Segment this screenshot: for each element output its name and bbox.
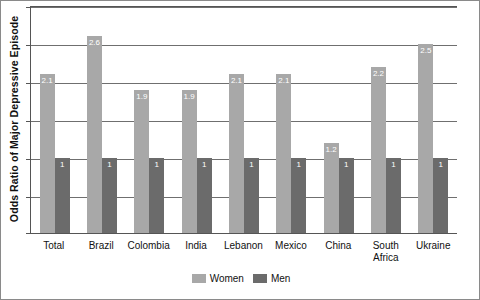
bar-women[interactable]: 1.2 <box>324 143 339 234</box>
legend-label: Men <box>271 273 290 284</box>
bar-value-label: 1.9 <box>184 93 195 101</box>
bar-value-label: 2.1 <box>231 77 242 85</box>
bar-group: 2.61 <box>78 7 125 234</box>
plot-area: 2.112.611.911.912.112.111.212.212.51 <box>30 6 457 234</box>
x-axis-label: Ukraine <box>410 237 457 271</box>
x-axis-label: Lebanon <box>220 237 267 271</box>
bar-value-label: 1 <box>202 161 206 169</box>
y-axis-title-container: Odds Ratio of Major Depressive Episode <box>1 1 27 237</box>
bar-men[interactable]: 1 <box>102 158 117 234</box>
x-axis-label: Brazil <box>77 237 124 271</box>
x-axis-label: South Africa <box>362 237 409 271</box>
chart-legend: WomenMen <box>1 273 480 284</box>
bar-group: 1.91 <box>173 7 220 234</box>
legend-swatch-icon <box>253 274 267 283</box>
bar-men[interactable]: 1 <box>291 158 306 234</box>
legend-swatch-icon <box>192 274 206 283</box>
bar-value-label: 1 <box>297 161 301 169</box>
bar-women[interactable]: 2.1 <box>40 74 55 234</box>
bar-value-label: 1 <box>391 161 395 169</box>
bar-value-label: 1 <box>60 161 64 169</box>
bar-value-label: 2.1 <box>278 77 289 85</box>
bar-group: 2.11 <box>220 7 267 234</box>
bar-men[interactable]: 1 <box>339 158 354 234</box>
x-axis-label: China <box>315 237 362 271</box>
bar-value-label: 2.1 <box>42 77 53 85</box>
bar-groups: 2.112.611.911.912.112.111.212.212.51 <box>31 7 457 234</box>
bar-value-label: 1.9 <box>136 93 147 101</box>
x-axis-baseline <box>26 233 457 234</box>
x-axis-label: Mexico <box>267 237 314 271</box>
bar-group: 1.21 <box>315 7 362 234</box>
legend-label: Women <box>210 273 244 284</box>
bar-group: 2.51 <box>410 7 457 234</box>
bar-women[interactable]: 2.1 <box>276 74 291 234</box>
bar-men[interactable]: 1 <box>55 158 70 234</box>
bar-value-label: 2.2 <box>373 70 384 78</box>
bar-group: 2.11 <box>268 7 315 234</box>
bar-women[interactable]: 2.5 <box>418 44 433 234</box>
bar-value-label: 1 <box>107 161 111 169</box>
x-axis-label: Colombia <box>125 237 172 271</box>
bar-value-label: 1 <box>155 161 159 169</box>
legend-item-men[interactable]: Men <box>253 273 290 284</box>
x-axis-label: India <box>172 237 219 271</box>
bar-women[interactable]: 1.9 <box>134 90 149 234</box>
bar-group: 2.21 <box>362 7 409 234</box>
bar-value-label: 2.5 <box>420 47 431 55</box>
bar-value-label: 2.6 <box>89 39 100 47</box>
x-axis-label: Total <box>30 237 77 271</box>
bar-value-label: 1 <box>344 161 348 169</box>
bar-women[interactable]: 2.1 <box>229 74 244 234</box>
y-axis-title: Odds Ratio of Major Depressive Episode <box>8 16 20 222</box>
x-axis-labels: TotalBrazilColombiaIndiaLebanonMexicoChi… <box>30 237 457 271</box>
bar-women[interactable]: 2.2 <box>371 67 386 234</box>
bar-women[interactable]: 2.6 <box>87 36 102 234</box>
bar-group: 2.11 <box>31 7 78 234</box>
bar-men[interactable]: 1 <box>197 158 212 234</box>
bar-men[interactable]: 1 <box>149 158 164 234</box>
bar-value-label: 1.2 <box>326 146 337 154</box>
bar-value-label: 1 <box>439 161 443 169</box>
bar-men[interactable]: 1 <box>244 158 259 234</box>
bar-men[interactable]: 1 <box>386 158 401 234</box>
bar-men[interactable]: 1 <box>433 158 448 234</box>
bar-group: 1.91 <box>126 7 173 234</box>
bar-women[interactable]: 1.9 <box>182 90 197 234</box>
bar-value-label: 1 <box>249 161 253 169</box>
chart-figure: Odds Ratio of Major Depressive Episode 2… <box>0 0 480 300</box>
legend-item-women[interactable]: Women <box>192 273 244 284</box>
